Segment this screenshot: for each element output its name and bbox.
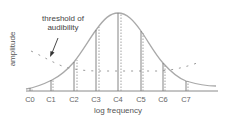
tick-label-c1: C1 — [46, 95, 56, 104]
threshold-annotation: threshold of audibility — [42, 14, 84, 32]
threshold-curve — [31, 51, 200, 71]
y-axis-label: amplitude — [8, 32, 17, 67]
tick-label-c4: C4 — [113, 95, 123, 104]
tick-label-c6: C6 — [158, 95, 168, 104]
annotation-arrow-icon — [50, 38, 58, 57]
tick-label-c7: C7 — [181, 95, 191, 104]
annotation-line-2: audibility — [42, 23, 84, 32]
tick-label-c5: C5 — [136, 95, 146, 104]
x-axis-label: log frequency — [94, 106, 142, 115]
tick-label-c2: C2 — [69, 95, 79, 104]
tick-label-c3: C3 — [91, 95, 101, 104]
annotation-line-1: threshold of — [42, 14, 84, 23]
tick-label-c0: C0 — [25, 95, 35, 104]
spectral-envelope-diagram: threshold of audibility amplitude log fr… — [0, 0, 228, 120]
